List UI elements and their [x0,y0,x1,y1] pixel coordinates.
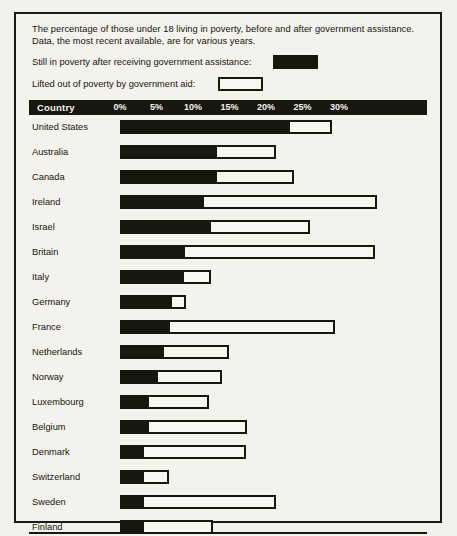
row-label-netherlands: Netherlands [32,347,82,357]
row-label-canada: Canada [32,172,65,182]
chart-caption: The percentage of those under 18 living … [32,23,428,48]
bar-segment-still-in-poverty [120,270,184,284]
bar-group [120,220,310,234]
row-label-norway: Norway [32,372,64,382]
chart-row: Canada [16,165,444,190]
bar-group [120,445,246,459]
bar-group [120,245,375,259]
row-label-italy: Italy [32,272,49,282]
chart-row: Luxembourg [16,390,444,415]
bar-group [120,195,377,209]
chart-row: Switzerland [16,465,444,490]
chart-row: Ireland [16,190,444,215]
bar-segment-still-in-poverty [120,320,170,334]
axis-tick-25pct: 25% [293,102,311,112]
bar-group [120,495,276,509]
bar-group [120,145,276,159]
bar-group [120,320,335,334]
chart-row: Germany [16,290,444,315]
axis-tick-15pct: 15% [220,102,238,112]
bar-group [120,120,332,134]
chart-row: Israel [16,215,444,240]
row-label-france: France [32,322,61,332]
chart-row: Belgium [16,415,444,440]
axis-header-bar: Country 0%5%10%15%20%25%30% [29,100,427,115]
bar-segment-still-in-poverty [120,295,172,309]
axis-tick-5pct: 5% [150,102,163,112]
legend-label-still-in-poverty: Still in poverty after receiving governm… [32,57,252,67]
bar-group [120,295,186,309]
chart-row: Netherlands [16,340,444,365]
axis-tick-20pct: 20% [257,102,275,112]
chart-row: Norway [16,365,444,390]
bar-segment-still-in-poverty [120,395,149,409]
row-label-australia: Australia [32,147,68,157]
axis-tick-30pct: 30% [330,102,348,112]
chart-row: Sweden [16,490,444,515]
row-label-finland: Finland [32,522,63,532]
legend-label-lifted-out: Lifted out of poverty by government aid: [32,79,195,89]
chart-rows: United StatesAustraliaCanadaIrelandIsrae… [16,115,444,536]
bar-segment-still-in-poverty [120,220,211,234]
chart-row: Britain [16,240,444,265]
bar-segment-still-in-poverty [120,170,217,184]
row-label-sweden: Sweden [32,497,66,507]
bar-group [120,470,169,484]
chart-row: Denmark [16,440,444,465]
chart-frame: The percentage of those under 18 living … [14,12,442,523]
bar-group [120,270,211,284]
row-label-israel: Israel [32,222,55,232]
bar-group [120,370,222,384]
bar-segment-still-in-poverty [120,445,144,459]
filled-black-swatch-icon [273,55,318,69]
bar-segment-still-in-poverty [120,145,217,159]
row-label-britain: Britain [32,247,58,257]
bar-segment-still-in-poverty [120,470,144,484]
bar-segment-still-in-poverty [120,195,204,209]
bar-segment-still-in-poverty [120,420,149,434]
row-label-belgium: Belgium [32,422,66,432]
row-label-united-states: United States [32,122,88,132]
row-label-denmark: Denmark [32,447,70,457]
axis-tick-10pct: 10% [184,102,202,112]
row-label-ireland: Ireland [32,197,60,207]
bar-segment-still-in-poverty [120,345,164,359]
chart-row: Italy [16,265,444,290]
bottom-rule [29,532,427,534]
bar-group [120,420,247,434]
bar-segment-still-in-poverty [120,245,185,259]
row-label-luxembourg: Luxembourg [32,397,84,407]
chart-row: Australia [16,140,444,165]
bar-group [120,170,294,184]
bar-segment-still-in-poverty [120,120,290,134]
bar-group [120,395,209,409]
bar-group [120,345,229,359]
axis-tick-0pct: 0% [113,102,126,112]
poverty-chart-figure: The percentage of those under 18 living … [0,0,457,536]
row-label-germany: Germany [32,297,70,307]
bar-segment-still-in-poverty [120,495,144,509]
outlined-white-swatch-icon [218,77,263,91]
column-header-country: Country [37,102,75,113]
chart-row: France [16,315,444,340]
chart-row: United States [16,115,444,140]
bar-segment-still-in-poverty [120,370,158,384]
row-label-switzerland: Switzerland [32,472,80,482]
